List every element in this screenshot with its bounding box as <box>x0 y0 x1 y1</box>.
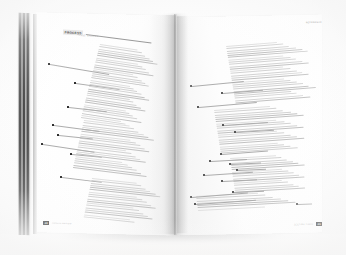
left-page-number: 48 <box>43 221 49 226</box>
annotation-marker <box>41 143 43 145</box>
annotation-marker <box>57 134 59 136</box>
annotation-marker <box>209 160 211 162</box>
annotation-marker <box>74 82 76 84</box>
annotation-marker <box>234 131 236 133</box>
annotation-marker <box>67 106 69 108</box>
annotation-marker <box>222 124 224 126</box>
annotation-marker <box>220 153 222 155</box>
annotation-marker <box>236 169 238 171</box>
annotation-marker <box>221 92 223 94</box>
annotation-marker <box>52 124 54 126</box>
annotation-marker <box>296 203 298 205</box>
right-page-folio-caption: SECTION THREE <box>294 223 313 225</box>
annotation-marker <box>203 174 205 176</box>
annotation-marker <box>221 180 223 182</box>
right-page-number: 49 <box>316 222 322 227</box>
annotation-marker <box>229 163 231 165</box>
annotation-marker <box>70 153 72 155</box>
page-edge-block-highlight <box>17 13 33 235</box>
page-edge-inner-rule <box>33 14 37 234</box>
annotation-marker <box>48 63 50 65</box>
center-fold-line <box>174 14 177 235</box>
text-column <box>226 40 318 105</box>
book-spread-photograph: CASE STUDIES REFERENCE PROCESS 48 ANNUAL… <box>0 0 346 255</box>
annotation-marker <box>60 176 62 178</box>
right-running-head: REFERENCE <box>306 21 322 23</box>
left-page-headline: PROCESS <box>63 30 83 36</box>
annotation-marker <box>232 191 234 193</box>
annotation-marker <box>197 106 199 108</box>
annotation-marker <box>194 203 196 205</box>
